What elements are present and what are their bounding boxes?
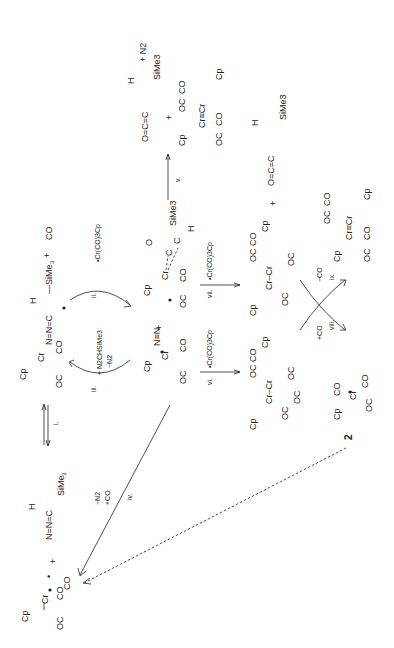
svg-text:H: H [126, 78, 136, 85]
svg-text:OC: OC [286, 366, 296, 380]
plus-sign: + [164, 115, 174, 120]
svg-text:O=C=C: O=C=C [266, 155, 276, 186]
svg-text:viii.: viii. [328, 320, 335, 330]
svg-text:SiMe3: SiMe3 [152, 54, 162, 80]
svg-text:CO: CO [322, 193, 332, 207]
svg-text:+: + [268, 201, 278, 206]
dimer-vi: Cp Cr–Cr OC OC OC CO OC Cp [248, 336, 302, 430]
arrow-v: v. [166, 154, 181, 200]
plus-sign: + [154, 325, 164, 330]
svg-text:CO: CO [54, 341, 64, 355]
svg-text:Cp: Cp [20, 610, 30, 622]
arrow-iv: −N2 +CO iv. [78, 405, 170, 576]
svg-text:O: O [144, 239, 154, 246]
svg-text:ix.: ix. [328, 273, 335, 280]
svg-text:iii.: iii. [90, 385, 97, 392]
svg-text:OC: OC [322, 210, 332, 224]
plus-sign: + [48, 559, 58, 564]
svg-text:N=N=C: N=N=C [44, 509, 54, 540]
svg-text:v.: v. [174, 177, 181, 182]
svg-text:i.: i. [52, 421, 59, 425]
svg-text:iv.: iv. [126, 493, 133, 500]
dinitrogen-complex-species: Cp Cr OC CO N≡N [142, 328, 188, 384]
start-radical-species: Cp Cr OC CO CO • [20, 575, 72, 630]
svg-text:Cp: Cp [142, 360, 152, 372]
svg-text:OC: OC [248, 364, 258, 378]
svg-text:OC: OC [178, 370, 188, 384]
svg-text:H: H [250, 120, 260, 127]
svg-text:Cp: Cp [332, 250, 342, 262]
arrow-vi: vi. •Cr(CO)3Cp [200, 330, 240, 385]
svg-text:C: C [164, 249, 174, 256]
svg-text:O=C=C: O=C=C [140, 111, 150, 142]
cycle-arrows-ii-iii: ii. •Cr(CO)3Cp iii. + N2CHSiMe3 −N2 [69, 224, 131, 392]
svg-text:+ N2: + N2 [138, 43, 148, 62]
svg-text:C: C [172, 237, 182, 244]
svg-text:SiMe3: SiMe3 [168, 200, 178, 226]
svg-text:CO: CO [178, 269, 188, 283]
svg-text:OC: OC [364, 398, 374, 412]
svg-text:SiMe: SiMe [56, 475, 66, 496]
svg-text:CO: CO [178, 339, 188, 353]
arrows-viii-ix: +CO viii. −CO ix. [300, 267, 346, 340]
svg-text:3: 3 [61, 472, 67, 476]
svg-text:Cp: Cp [332, 408, 342, 420]
reaction-scheme: Cp Cr OC CO CO • + N=N=C H SiMe 3 i. Cp … [0, 0, 394, 648]
svg-text:−N2: −N2 [94, 492, 101, 505]
svg-text:•Cr(CO)3Cp: •Cr(CO)3Cp [206, 330, 214, 368]
ketene-product-top: O=C=C H SiMe3 + N2 [126, 43, 162, 142]
svg-text:ii.: ii. [90, 293, 97, 298]
svg-text:CO: CO [177, 81, 187, 95]
svg-text:H: H [28, 298, 38, 305]
svg-text:Cp: Cp [362, 188, 372, 200]
svg-text:vii.: vii. [206, 289, 213, 298]
ketene-product-right: O=C=C H SiMe3 + [250, 94, 288, 206]
svg-text:OC: OC [54, 374, 64, 388]
svg-text:Cr≡Cr: Cr≡Cr [344, 216, 354, 240]
svg-text:SiMe3: SiMe3 [278, 94, 288, 120]
diazo-species: N=N=C H SiMe 3 [27, 472, 67, 540]
svg-text:OC: OC [280, 406, 290, 420]
svg-text:CO: CO [62, 577, 72, 591]
svg-text:CO: CO [248, 349, 258, 363]
svg-text:N=N=C: N=N=C [44, 314, 54, 345]
svg-text:OC: OC [292, 390, 302, 404]
svg-text:2: 2 [343, 434, 354, 440]
svg-text:OC: OC [55, 616, 65, 630]
svg-text:+CO: +CO [104, 490, 111, 505]
arrow-vii: vii. •Cr(CO)3Cp [200, 242, 240, 298]
compound-2: Cp Cr OC CO CO 2 [332, 375, 374, 441]
svg-text:Cp: Cp [260, 220, 270, 232]
svg-text:3: 3 [49, 260, 55, 264]
svg-text:H: H [186, 226, 196, 233]
svg-text:CO: CO [332, 383, 342, 397]
triple-bond-dimer-right: Cp Cr≡Cr OC CO OC CO Cp [322, 188, 372, 262]
svg-text:•: • [44, 575, 54, 578]
dashed-arrow-from-2 [83, 448, 346, 584]
svg-text:OC: OC [178, 294, 188, 308]
svg-text:Cp: Cp [18, 368, 28, 380]
svg-text:OC: OC [214, 132, 224, 146]
svg-text:—SiMe: —SiMe [44, 264, 54, 294]
svg-text:vi.: vi. [206, 378, 213, 385]
svg-text:H: H [27, 504, 37, 511]
svg-text:+ N2CHSiMe3: + N2CHSiMe3 [96, 330, 103, 375]
svg-text:OC: OC [280, 292, 290, 306]
svg-text:+CO: +CO [316, 325, 323, 340]
svg-text:Cr: Cr [40, 595, 50, 605]
diazo-adduct-species: Cp Cr OC CO N=N=C H —SiMe 3 + CO [18, 227, 66, 389]
svg-text:•Cr(CO)3Cp: •Cr(CO)3Cp [94, 224, 102, 262]
scheme-canvas: Cp Cr OC CO CO • + N=N=C H SiMe 3 i. Cp … [0, 0, 394, 648]
svg-text:OC: OC [362, 248, 372, 262]
svg-text:+: + [42, 253, 52, 258]
dimer-vii: Cp Cr–Cr OC OC CO OC Cp [248, 220, 296, 316]
svg-text:Cr–Cr: Cr–Cr [264, 266, 274, 290]
svg-text:OC: OC [248, 248, 258, 262]
svg-text:−CO: −CO [316, 267, 323, 282]
ketene-complex-species: Cp Cr OC CO O C C SiMe3 H [142, 200, 196, 308]
svg-text:Cp: Cp [142, 284, 152, 296]
svg-text:Cr–Cr: Cr–Cr [264, 380, 274, 404]
svg-text:Cr: Cr [160, 271, 170, 281]
equilibrium-arrow-i: i. [42, 404, 59, 446]
svg-text:OC: OC [177, 98, 187, 112]
